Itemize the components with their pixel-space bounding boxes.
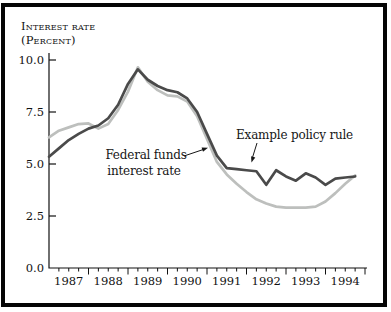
y-tick-label: 10.0 [18,53,44,67]
fed-funds-arrowhead-icon [202,148,208,152]
policy-rule-label: Example policy rule [236,128,353,142]
axis-lines [49,53,367,268]
policy-rule-arrowhead-icon [251,156,255,162]
x-tick-label: 1990 [173,274,202,288]
y-tick-label: 5.0 [26,157,44,171]
x-tick-label: 1988 [94,274,123,288]
x-tick-label: 1992 [252,274,281,288]
figure-page: Interest rate (Percent) 10.07.55.02.50.0… [0,0,391,312]
y-tick-label: 2.5 [26,209,44,223]
fed-funds-pointer-line [184,150,203,156]
x-tick-label: 1993 [291,274,320,288]
x-tick-label: 1991 [212,274,241,288]
interest-rate-chart: 10.07.55.02.50.0198719881989199019911992… [0,0,391,312]
x-tick-label: 1989 [133,274,162,288]
x-tick-label: 1994 [331,274,360,288]
fed-funds-label-line1: Federal funds [105,148,186,162]
policy-rule-pointer-line [252,143,257,159]
y-tick-label: 0.0 [26,261,44,275]
fed-funds-label-line2: interest rate [107,164,180,178]
chart-generated-layer: 10.07.55.02.50.0198719881989199019911992… [18,53,367,288]
y-tick-label: 7.5 [26,105,44,119]
x-tick-label: 1987 [54,274,83,288]
